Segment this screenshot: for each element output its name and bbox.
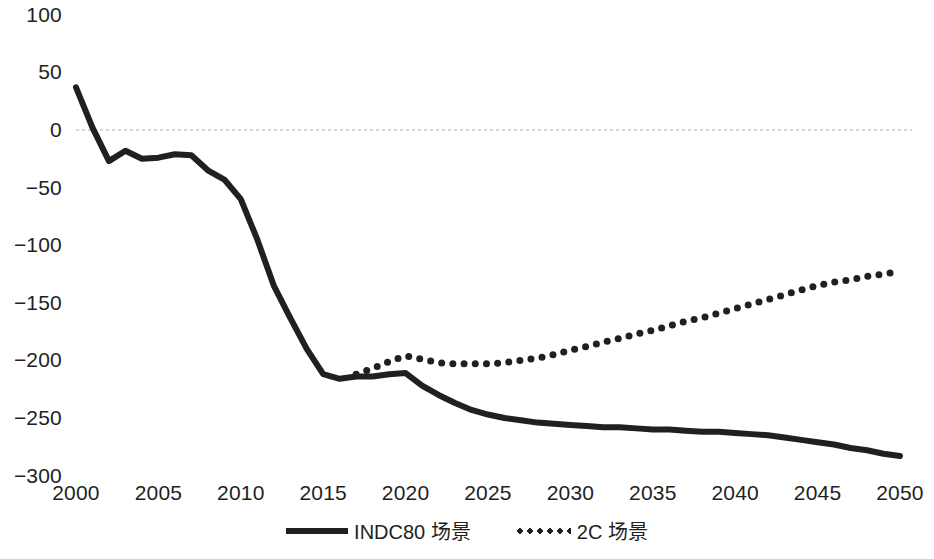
y-axis-tick-3: −50 xyxy=(26,176,62,200)
y-axis-tick-5: −150 xyxy=(14,291,62,315)
legend-swatch-dotted-icon xyxy=(515,523,571,539)
legend-label-1: 2C 场景 xyxy=(577,516,648,545)
x-axis-tick-0: 2000 xyxy=(52,481,100,505)
y-axis-tick-7: −250 xyxy=(14,406,62,430)
y-axis-tick-4: −100 xyxy=(14,233,62,257)
x-axis-tick-8: 2040 xyxy=(711,481,759,505)
legend-entry-0[interactable]: INDC80 场景 xyxy=(286,516,471,545)
x-axis-tick-4: 2020 xyxy=(382,481,430,505)
series-line-indc80 xyxy=(76,87,900,456)
x-axis-tick-10: 2050 xyxy=(876,481,924,505)
legend-entry-1[interactable]: 2C 场景 xyxy=(515,516,648,545)
chart-legend: INDC80 场景2C 场景 xyxy=(0,516,934,545)
y-axis-tick-2: 0 xyxy=(50,118,62,142)
x-axis-tick-7: 2035 xyxy=(629,481,677,505)
x-axis-tick-3: 2015 xyxy=(299,481,347,505)
series-line-2c xyxy=(353,270,894,378)
y-axis-tick-1: 50 xyxy=(38,60,62,84)
plot-area xyxy=(0,0,934,559)
x-axis-tick-9: 2045 xyxy=(794,481,842,505)
x-axis-tick-1: 2005 xyxy=(135,481,183,505)
x-axis-tick-2: 2010 xyxy=(217,481,265,505)
y-axis-tick-0: 100 xyxy=(26,3,62,27)
legend-label-0: INDC80 场景 xyxy=(354,516,471,545)
chart-container: 100500−50−100−150−200−250−300 2000200520… xyxy=(0,0,934,559)
x-axis-tick-5: 2025 xyxy=(464,481,512,505)
legend-swatch-solid-icon xyxy=(286,523,348,539)
y-axis-tick-6: −200 xyxy=(14,348,62,372)
x-axis-tick-6: 2030 xyxy=(547,481,595,505)
